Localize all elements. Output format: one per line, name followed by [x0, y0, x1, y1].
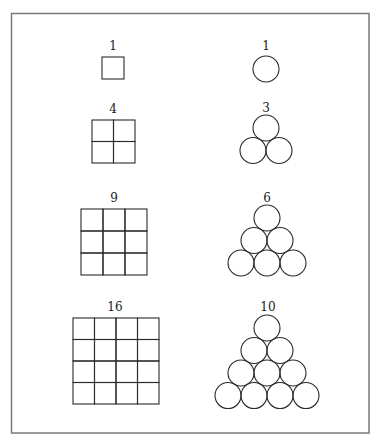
unit-square: [103, 253, 125, 275]
unit-circle: [240, 138, 266, 164]
unit-square: [138, 340, 160, 362]
unit-circle: [254, 250, 280, 276]
triangle-label-10: 10: [260, 300, 275, 314]
unit-circle: [293, 383, 319, 409]
unit-circle: [241, 228, 267, 254]
unit-circle: [253, 56, 279, 82]
unit-square: [73, 340, 95, 362]
unit-circle: [266, 138, 292, 164]
unit-square: [95, 318, 117, 340]
square-label-16: 16: [107, 300, 122, 314]
square-grid-4: [92, 120, 135, 163]
unit-square: [103, 209, 125, 231]
unit-circle: [267, 228, 293, 254]
unit-square: [95, 340, 117, 362]
unit-square: [116, 383, 138, 405]
circle-triangle-3: [240, 115, 292, 164]
square-label-9: 9: [110, 191, 118, 205]
square-grid-16: [73, 318, 159, 404]
unit-circle: [254, 360, 280, 386]
unit-square: [81, 231, 103, 253]
unit-circle: [280, 360, 306, 386]
figure-frame: [12, 14, 370, 434]
unit-square: [103, 231, 125, 253]
unit-square: [73, 361, 95, 383]
unit-circle: [267, 383, 293, 409]
unit-square: [92, 120, 114, 142]
unit-square: [95, 361, 117, 383]
unit-square: [116, 340, 138, 362]
unit-square: [102, 57, 124, 79]
unit-square: [92, 142, 114, 164]
unit-circle: [267, 338, 293, 364]
figure-canvas: 1 4 9 16 1 3 6 10: [0, 0, 376, 440]
unit-circle: [241, 338, 267, 364]
unit-square: [138, 383, 160, 405]
square-grid-1: [102, 57, 124, 79]
unit-square: [95, 383, 117, 405]
unit-square: [114, 142, 136, 164]
circle-triangle-10: [215, 315, 319, 409]
square-label-4: 4: [109, 102, 117, 116]
square-label-1: 1: [109, 39, 117, 53]
unit-square: [138, 318, 160, 340]
unit-square: [114, 120, 136, 142]
unit-square: [116, 361, 138, 383]
unit-circle: [254, 205, 280, 231]
unit-square: [81, 209, 103, 231]
triangle-label-3: 3: [262, 101, 270, 115]
unit-square: [125, 253, 147, 275]
unit-square: [73, 383, 95, 405]
unit-square: [125, 231, 147, 253]
triangle-label-6: 6: [263, 191, 271, 205]
unit-square: [81, 253, 103, 275]
square-grid-9: [81, 209, 147, 275]
triangle-label-1: 1: [262, 39, 270, 53]
unit-circle: [280, 250, 306, 276]
unit-circle: [254, 315, 280, 341]
unit-circle: [253, 115, 279, 141]
unit-circle: [228, 250, 254, 276]
unit-square: [138, 361, 160, 383]
unit-square: [125, 209, 147, 231]
unit-circle: [215, 383, 241, 409]
unit-circle: [228, 360, 254, 386]
circle-triangle-1: [253, 56, 279, 82]
unit-square: [116, 318, 138, 340]
unit-square: [73, 318, 95, 340]
unit-circle: [241, 383, 267, 409]
circle-triangle-6: [228, 205, 306, 276]
